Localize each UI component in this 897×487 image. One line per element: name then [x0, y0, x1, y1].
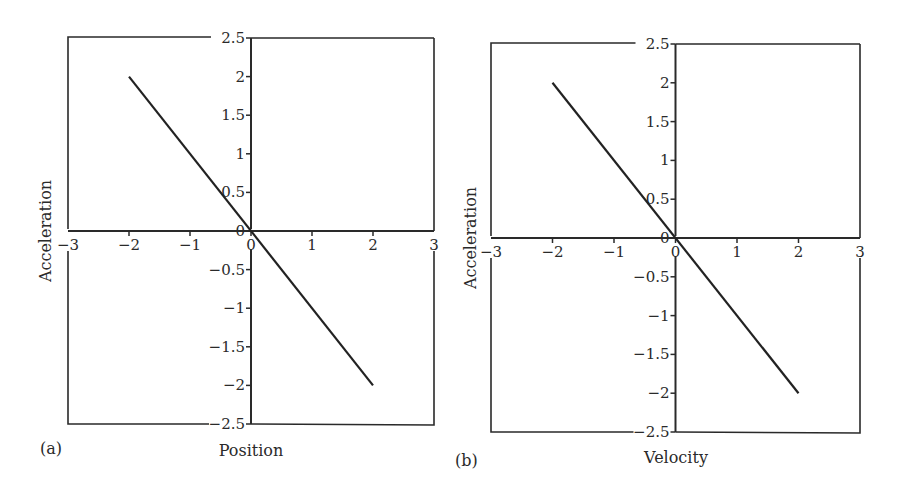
x-tick-label: 2	[794, 243, 804, 261]
panel-label-b: (b)	[455, 451, 478, 470]
x-tick-label: 0	[246, 236, 256, 254]
y-tick-label: −1	[223, 299, 245, 317]
x-tick-label: −1	[603, 243, 625, 261]
y-tick-label: −1.5	[633, 345, 669, 363]
y-tick-label: 1.5	[646, 113, 670, 131]
x-axis-label-b: Velocity	[643, 448, 708, 467]
x-tick-label: −2	[541, 243, 563, 261]
x-tick-label: −3	[57, 236, 79, 254]
y-tick-label: 1	[235, 145, 245, 163]
y-tick-label: 0	[660, 229, 670, 247]
y-tick-label: −0.5	[633, 268, 669, 286]
y-tick-label: −1	[647, 307, 669, 325]
panel-label-a: (a)	[40, 439, 62, 458]
x-tick-label: 2	[368, 236, 378, 254]
x-tick-label: 1	[732, 243, 742, 261]
chart-panel-a: −3−2−101232.521.510.50−0.5−1−1.5−2−2.5	[57, 29, 439, 433]
x-axis-label-a: Position	[219, 441, 284, 460]
y-tick-label: 1.5	[221, 106, 245, 124]
y-tick-label: −2.5	[633, 423, 669, 441]
x-tick-label: −1	[179, 236, 201, 254]
y-tick-label: 0	[235, 222, 245, 240]
y-tick-label: −1.5	[209, 338, 245, 356]
y-tick-label: −2	[647, 384, 669, 402]
y-tick-label: 2	[235, 68, 245, 86]
y-tick-label: 1	[660, 151, 670, 169]
y-tick-label: 2.5	[646, 35, 670, 53]
x-tick-label: 3	[429, 236, 439, 254]
y-tick-label: −2.5	[209, 415, 245, 433]
y-tick-label: 2	[660, 74, 670, 92]
y-tick-label: −0.5	[209, 261, 245, 279]
chart-panel-b: −3−2−101232.521.510.50−0.5−1−1.5−2−2.5	[480, 35, 865, 441]
x-tick-label: −2	[118, 236, 140, 254]
x-tick-label: 0	[671, 243, 681, 261]
y-axis-label-b: Acceleration	[461, 187, 480, 290]
y-tick-label: −2	[223, 376, 245, 394]
x-tick-label: 3	[855, 243, 865, 261]
figure: −3−2−101232.521.510.50−0.5−1−1.5−2−2.5 −…	[0, 0, 897, 487]
y-axis-label-a: Acceleration	[36, 180, 55, 283]
y-tick-label: 2.5	[221, 29, 245, 47]
x-tick-label: 1	[307, 236, 317, 254]
x-tick-label: −3	[480, 243, 502, 261]
